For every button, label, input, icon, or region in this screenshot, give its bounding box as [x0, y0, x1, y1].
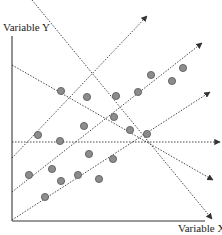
data-point [126, 126, 133, 133]
line-steep-decreasing [32, 0, 212, 219]
data-point [48, 165, 55, 172]
data-point [143, 130, 150, 137]
data-point [41, 193, 48, 200]
data-points [25, 64, 186, 200]
data-point [74, 171, 81, 178]
data-point [57, 87, 64, 94]
data-point [56, 137, 63, 144]
x-axis-label: Variable X [178, 222, 222, 234]
data-point [134, 88, 141, 95]
line-increasing-middle [12, 43, 202, 192]
line-increasing-upper [12, 16, 147, 158]
scatter-plot [0, 0, 222, 235]
data-point [57, 177, 64, 184]
data-point [109, 155, 116, 162]
data-point [110, 113, 117, 120]
data-point [25, 171, 32, 178]
data-point [85, 150, 92, 157]
data-point [112, 92, 119, 99]
data-point [83, 93, 90, 100]
trend-lines [12, 0, 220, 220]
data-point [179, 64, 186, 71]
y-axis-label: Variable Y [3, 21, 50, 33]
data-point [147, 71, 154, 78]
data-point [80, 122, 87, 129]
data-point [34, 131, 41, 138]
data-point [95, 175, 102, 182]
data-point [168, 77, 175, 84]
